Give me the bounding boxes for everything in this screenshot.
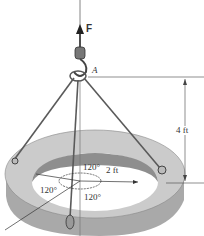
lifting-ring-diagram: F A 4 ft 2 ft 120° 120° 120°: [0, 0, 204, 236]
point-label-a: A: [92, 66, 98, 75]
force-arrow-icon: [76, 24, 84, 34]
height-dimension-label: 4 ft: [176, 126, 188, 135]
angle-label-top: 120°: [83, 163, 100, 172]
angle-label-left: 120°: [40, 186, 57, 195]
lug-right: [158, 166, 166, 174]
shackle-icon: [75, 47, 85, 59]
force-label: F: [86, 24, 92, 34]
radius-dimension-label: 2 ft: [106, 166, 118, 175]
angle-label-right: 120°: [84, 193, 101, 202]
diagram-canvas: [0, 0, 204, 236]
lug-left: [12, 158, 18, 164]
lug-front: [66, 215, 74, 229]
